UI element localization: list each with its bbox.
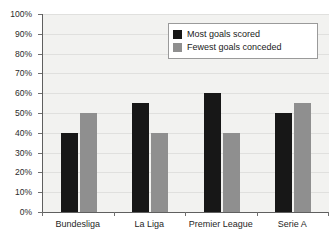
x-axis-tick-mark (114, 212, 115, 216)
x-axis: BundesligaLa LigaPremier LeagueSerie A (42, 218, 329, 234)
y-axis: 0%10%20%30%40%50%60%70%80%90%100% (0, 0, 36, 241)
legend-item: Most goals scored (173, 28, 312, 41)
x-axis-tick-mark (257, 212, 258, 216)
y-axis-tick-label: 20% (0, 168, 32, 177)
y-axis-tick-label: 90% (0, 29, 32, 38)
y-axis-tick-label: 10% (0, 188, 32, 197)
x-axis-tick-label: Serie A (257, 218, 329, 230)
legend-item: Fewest goals conceded (173, 41, 312, 54)
x-axis-tick-mark (42, 212, 43, 216)
x-axis-tick-mark (328, 212, 329, 216)
legend-label: Most goals scored (187, 29, 260, 40)
y-axis-tick-label: 30% (0, 148, 32, 157)
bar (275, 113, 292, 212)
bar (61, 133, 78, 212)
bar (80, 113, 97, 212)
legend-swatch-fewest-goals-conceded (173, 43, 182, 52)
bar (223, 133, 240, 212)
x-axis-ticks (42, 212, 329, 217)
bar (132, 103, 149, 212)
bar (294, 103, 311, 212)
bar (151, 133, 168, 212)
y-axis-tick-label: 60% (0, 89, 32, 98)
x-axis-tick-label: Bundesliga (42, 218, 114, 230)
y-axis-tick-label: 50% (0, 109, 32, 118)
x-axis-tick-label: La Liga (114, 218, 186, 230)
x-axis-tick-label: Premier League (185, 218, 257, 230)
y-axis-tick-label: 80% (0, 49, 32, 58)
y-axis-tick-label: 40% (0, 128, 32, 137)
y-axis-tick-label: 100% (0, 10, 32, 19)
bar-chart: 0%10%20%30%40%50%60%70%80%90%100% Bundes… (0, 0, 330, 241)
legend-swatch-most-goals-scored (173, 30, 182, 39)
y-axis-tick-label: 0% (0, 208, 32, 217)
legend-label: Fewest goals conceded (187, 42, 282, 53)
x-axis-tick-mark (185, 212, 186, 216)
chart-legend: Most goals scored Fewest goals conceded (168, 23, 318, 59)
chart-title (0, 0, 330, 2)
bar (204, 93, 221, 212)
y-axis-tick-label: 70% (0, 69, 32, 78)
